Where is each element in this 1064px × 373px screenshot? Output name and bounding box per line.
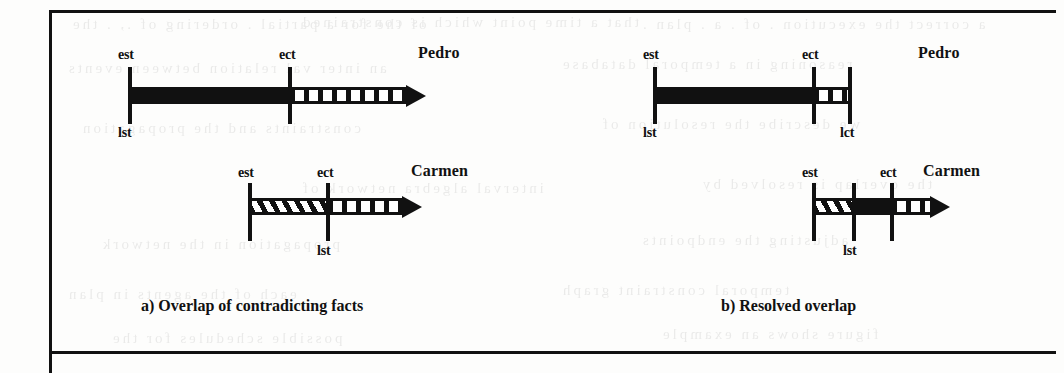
timeline-name-pedro: Pedro	[918, 45, 960, 61]
tick-mark-lst	[852, 183, 856, 241]
panel-a: est lst ect Pedro est ect lst Carmen a) …	[0, 0, 560, 351]
tick-mark-est	[653, 67, 657, 124]
tick-label-ect: ect	[802, 48, 819, 62]
tick-label-est: est	[118, 48, 134, 62]
segment-solid	[655, 87, 814, 104]
tick-label-lst: lst	[643, 126, 656, 140]
timeline-name-carmen: Carmen	[923, 163, 980, 179]
tick-label-lst: lst	[317, 244, 330, 258]
tick-mark-ect	[812, 67, 816, 124]
tick-label-ect: ect	[317, 166, 334, 180]
tick-mark-ect	[288, 67, 292, 124]
segment-solid	[130, 87, 290, 104]
arrowhead-icon	[406, 85, 426, 107]
segment-dashed	[814, 87, 851, 104]
arrowhead-icon	[402, 196, 422, 218]
tick-mark-ect	[326, 183, 330, 241]
tick-label-lst: lst	[843, 244, 856, 258]
tick-label-est: est	[643, 48, 659, 62]
tick-label-est: est	[802, 166, 818, 180]
tick-mark-est	[128, 67, 132, 124]
tick-mark-est	[248, 183, 252, 241]
panel-caption-b: b) Resolved overlap	[721, 298, 856, 314]
tick-label-est: est	[238, 166, 254, 180]
timeline-name-pedro: Pedro	[418, 45, 460, 61]
tick-mark-est	[812, 183, 816, 241]
tick-label-lct: lct	[840, 126, 854, 140]
tick-mark-ect	[890, 183, 894, 241]
figure-bottom-rule	[49, 351, 1056, 354]
segment-hatched	[814, 198, 854, 215]
segment-solid	[854, 198, 892, 215]
segment-dashed	[290, 87, 406, 104]
arrowhead-icon	[930, 196, 950, 218]
segment-dashed	[892, 198, 930, 215]
segment-hatched	[250, 198, 328, 215]
segment-dashed	[328, 198, 402, 215]
tick-mark-lct	[848, 67, 852, 124]
figure-root: of the for a partial . ordering of ., . …	[0, 0, 1064, 373]
timeline-name-carmen: Carmen	[411, 163, 468, 179]
tick-label-lst: lst	[118, 126, 131, 140]
tick-label-ect: ect	[279, 48, 296, 62]
panel-b: est lst ect lct Pedro est lst ect Carmen	[560, 0, 1064, 351]
tick-label-ect: ect	[880, 166, 897, 180]
panel-caption-a: a) Overlap of contradicting facts	[141, 298, 363, 314]
